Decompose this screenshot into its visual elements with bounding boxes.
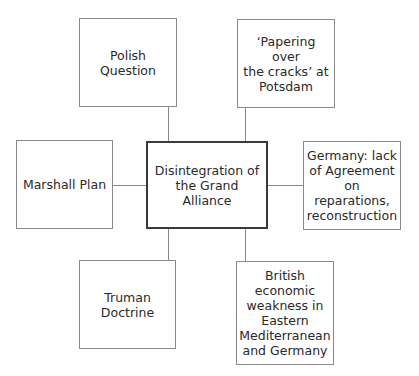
connector-center-british [245, 229, 246, 261]
node-label: Truman Doctrine [101, 290, 154, 320]
node-polish-question: Polish Question [79, 18, 177, 107]
node-label: Germany: lack of Agreement on reparation… [307, 148, 397, 223]
connector-center-germany [268, 185, 303, 186]
node-truman-doctrine: Truman Doctrine [79, 260, 176, 349]
connector-center-truman [168, 229, 169, 260]
node-label: Marshall Plan [23, 177, 106, 192]
center-label: Disintegration of the Grand Alliance [151, 163, 263, 208]
connector-potsdam-center [245, 108, 246, 141]
connector-marshall-center [113, 185, 146, 186]
node-label: ‘Papering over the cracks’ at Potsdam [241, 34, 331, 94]
node-marshall-plan: Marshall Plan [16, 140, 113, 229]
node-british-weakness: British economic weakness in Eastern Med… [236, 261, 334, 365]
node-potsdam: ‘Papering over the cracks’ at Potsdam [237, 19, 335, 108]
node-label: Polish Question [100, 48, 156, 78]
node-label: British economic weakness in Eastern Med… [239, 268, 330, 358]
node-germany: Germany: lack of Agreement on reparation… [303, 141, 401, 230]
connector-polish-center [168, 107, 169, 141]
node-center-disintegration: Disintegration of the Grand Alliance [146, 141, 268, 229]
